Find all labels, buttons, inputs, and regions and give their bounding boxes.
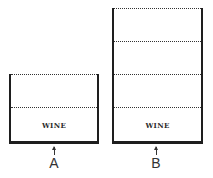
container-b-level-line-1 — [114, 41, 201, 42]
container-a: WINE — [9, 74, 99, 144]
container-b: WINE — [112, 8, 203, 144]
container-b-level-line-2 — [114, 74, 201, 75]
arrow-up-icon-b — [156, 147, 157, 155]
container-a-wine-label: WINE — [11, 121, 97, 130]
container-b-top-dotted-line — [114, 8, 201, 9]
container-a-top-dotted-line — [11, 74, 97, 75]
container-a-level-line — [11, 107, 97, 108]
container-b-letter: B — [146, 155, 166, 171]
container-b-level-line-3 — [114, 107, 201, 108]
container-a-letter: A — [44, 155, 64, 171]
container-b-wine-label: WINE — [114, 121, 201, 130]
arrow-up-icon-a — [54, 147, 55, 155]
